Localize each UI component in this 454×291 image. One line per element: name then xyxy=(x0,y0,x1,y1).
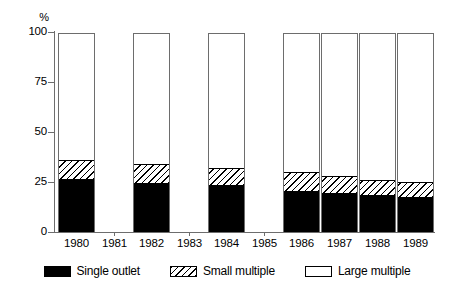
legend-label-large-multiple: Large multiple xyxy=(338,265,411,277)
x-tick-label-1982: 1982 xyxy=(132,237,171,250)
bar-1989 xyxy=(397,33,434,233)
bar-1980-segment-single-outlet xyxy=(59,180,94,232)
x-tick-label-1981: 1981 xyxy=(95,237,134,250)
legend-item-single-outlet: Single outlet xyxy=(44,265,140,277)
bar-1982 xyxy=(133,33,170,233)
bar-1984 xyxy=(208,33,245,233)
bar-1987-segment-single-outlet xyxy=(322,194,357,232)
bar-1989-segment-small-multiple xyxy=(398,182,433,198)
x-tick-label-1984: 1984 xyxy=(207,237,246,250)
legend-swatch-large-multiple-icon xyxy=(305,266,332,277)
x-tick-label-1980: 1980 xyxy=(57,237,96,250)
bar-1982-segment-single-outlet xyxy=(134,184,169,232)
legend-swatch-single-outlet-icon xyxy=(44,266,71,277)
bar-1989-segment-single-outlet xyxy=(398,198,433,232)
x-tick-mark-1985 xyxy=(264,232,265,236)
legend-item-large-multiple: Large multiple xyxy=(305,265,411,277)
bars-layer xyxy=(0,32,454,233)
bar-1982-segment-small-multiple xyxy=(134,164,169,184)
x-tick-label-1983: 1983 xyxy=(170,237,209,250)
bar-1988-segment-single-outlet xyxy=(360,196,395,232)
x-tick-label-1988: 1988 xyxy=(358,237,397,250)
x-tick-mark-1981 xyxy=(114,232,115,236)
bar-1980-segment-small-multiple xyxy=(59,160,94,180)
bar-1986 xyxy=(283,33,320,233)
legend-label-small-multiple: Small multiple xyxy=(203,265,275,277)
legend-swatch-small-multiple-icon xyxy=(170,266,197,277)
x-tick-label-1989: 1989 xyxy=(396,237,435,250)
bar-1987-segment-small-multiple xyxy=(322,176,357,194)
chart-legend: Single outlet Small multiple Large multi… xyxy=(0,259,454,283)
bar-1987 xyxy=(321,33,358,233)
bar-1986-segment-small-multiple xyxy=(284,172,319,192)
legend-item-small-multiple: Small multiple xyxy=(170,265,275,277)
legend-label-single-outlet: Single outlet xyxy=(77,265,140,277)
bar-1986-segment-single-outlet xyxy=(284,192,319,232)
bar-1980 xyxy=(58,33,95,233)
bar-1988 xyxy=(359,33,396,233)
x-tick-label-1986: 1986 xyxy=(282,237,321,250)
bar-1984-segment-small-multiple xyxy=(209,168,244,186)
bar-1988-segment-small-multiple xyxy=(360,180,395,196)
bar-1984-segment-single-outlet xyxy=(209,186,244,232)
stacked-bar-chart-figure: % 100 75 50 25 0 xyxy=(0,0,454,291)
x-tick-label-1987: 1987 xyxy=(320,237,359,250)
x-tick-mark-1983 xyxy=(189,232,190,236)
x-tick-label-1985: 1985 xyxy=(245,237,284,250)
